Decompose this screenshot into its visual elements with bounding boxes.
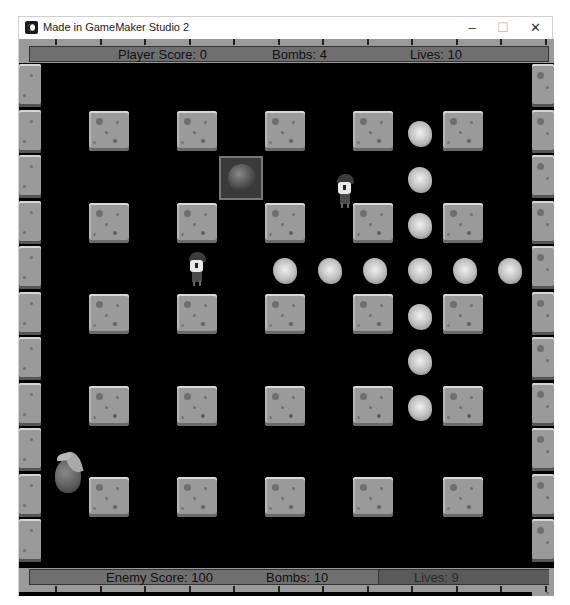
ruler-tick — [322, 586, 324, 592]
ruler-tick — [100, 39, 102, 45]
window-title: Made in GameMaker Studio 2 — [43, 21, 189, 33]
stone-block — [353, 477, 393, 517]
enemy-lives-panel — [378, 570, 549, 584]
stone-block — [443, 294, 483, 334]
ruler-tick — [367, 39, 369, 45]
game-canvas[interactable]: Player Score: 0 Bombs: 4 Lives: 10 Enemy… — [19, 39, 554, 596]
ruler-tick — [411, 39, 413, 45]
ruler-tick — [500, 39, 502, 45]
ruler-tick — [233, 39, 235, 45]
ruler-tick — [278, 586, 280, 592]
bomb-crate — [219, 156, 263, 200]
wall-block-right — [532, 428, 554, 471]
stone-block — [177, 203, 217, 243]
wall-block-right — [532, 64, 554, 107]
stone-block — [177, 294, 217, 334]
stone-block — [443, 111, 483, 151]
wall-block-right — [532, 474, 554, 517]
explosion-icon — [408, 349, 432, 375]
explosion-icon — [273, 258, 297, 284]
stone-block — [89, 203, 129, 243]
player-hud: Player Score: 0 Bombs: 4 Lives: 10 — [19, 39, 554, 63]
wall-block-right — [532, 201, 554, 244]
ruler-tick — [367, 586, 369, 592]
ruler-tick — [55, 586, 57, 592]
hud-ruler-ticks — [19, 39, 554, 45]
game-window: Made in GameMaker Studio 2 – ☐ ✕ Player … — [18, 16, 553, 596]
explosion-icon — [408, 258, 432, 284]
stone-block — [89, 111, 129, 151]
player-character — [335, 174, 355, 208]
stone-block — [89, 294, 129, 334]
explosion-icon — [408, 213, 432, 239]
stone-block — [353, 111, 393, 151]
stone-block — [177, 386, 217, 426]
stone-block — [177, 111, 217, 151]
player-bombs: Bombs: 4 — [272, 47, 327, 62]
stone-block — [353, 386, 393, 426]
title-bar[interactable]: Made in GameMaker Studio 2 – ☐ ✕ — [19, 17, 552, 39]
enemy-bombs: Bombs: 10 — [266, 570, 328, 585]
wall-block-left — [19, 201, 41, 244]
ruler-tick — [144, 39, 146, 45]
ruler-tick — [278, 39, 280, 45]
player-score: Player Score: 0 — [118, 47, 207, 62]
player-hud-bar: Player Score: 0 Bombs: 4 Lives: 10 — [29, 46, 549, 62]
wall-block-left — [19, 110, 41, 153]
wall-block-left — [19, 383, 41, 426]
enemy-lives: Lives: 9 — [414, 570, 459, 585]
stone-block — [89, 386, 129, 426]
bomb-icon — [228, 164, 256, 192]
ruler-tick — [545, 39, 547, 45]
wall-block-right — [532, 155, 554, 198]
enemy-hud-bar: Enemy Score: 100 Bombs: 10 Lives: 9 — [29, 569, 549, 585]
enemy-hud: Enemy Score: 100 Bombs: 10 Lives: 9 — [19, 568, 554, 592]
stone-block — [265, 386, 305, 426]
wall-block-left — [19, 246, 41, 289]
ruler-tick — [144, 586, 146, 592]
explosion-icon — [453, 258, 477, 284]
explosion-icon — [318, 258, 342, 284]
wall-block-right — [532, 383, 554, 426]
explosion-icon — [408, 395, 432, 421]
ruler-tick — [545, 586, 547, 592]
explosion-icon — [408, 304, 432, 330]
minimize-button[interactable]: – — [458, 19, 486, 37]
close-button[interactable]: ✕ — [521, 19, 549, 37]
explosion-icon — [363, 258, 387, 284]
stone-block — [265, 294, 305, 334]
stone-block — [265, 203, 305, 243]
gamemaker-logo-icon — [25, 21, 38, 34]
wall-block-right — [532, 292, 554, 335]
stone-block — [265, 477, 305, 517]
explosion-icon — [408, 167, 432, 193]
wall-block-left — [19, 428, 41, 471]
wall-block-left — [19, 64, 41, 107]
fruit-powerup-icon — [53, 449, 85, 495]
enemy-character — [187, 252, 207, 286]
maximize-button[interactable]: ☐ — [489, 19, 517, 37]
player-lives: Lives: 10 — [410, 47, 462, 62]
hud-ruler-ticks — [19, 586, 554, 592]
wall-block-right — [532, 246, 554, 289]
wall-block-right — [532, 519, 554, 562]
explosion-icon — [498, 258, 522, 284]
ruler-tick — [189, 586, 191, 592]
ruler-tick — [322, 39, 324, 45]
stone-block — [265, 111, 305, 151]
wall-block-left — [19, 292, 41, 335]
explosion-icon — [408, 121, 432, 147]
stone-block — [353, 294, 393, 334]
ruler-tick — [55, 39, 57, 45]
wall-block-left — [19, 474, 41, 517]
wall-block-left — [19, 337, 41, 380]
stone-block — [443, 477, 483, 517]
stone-block — [443, 203, 483, 243]
stone-block — [443, 386, 483, 426]
stone-block — [353, 203, 393, 243]
wall-block-right — [532, 110, 554, 153]
ruler-tick — [189, 39, 191, 45]
wall-block-right — [532, 337, 554, 380]
enemy-score: Enemy Score: 100 — [106, 570, 213, 585]
ruler-tick — [411, 586, 413, 592]
